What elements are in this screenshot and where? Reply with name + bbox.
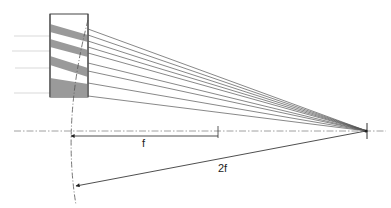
grating-element: [50, 14, 88, 97]
converging-rays: [88, 29, 367, 131]
f-label: f: [142, 137, 146, 149]
incoming-rays: [12, 36, 50, 93]
2f-dimension-arrow: [76, 131, 366, 186]
optics-diagram: f 2f: [0, 0, 391, 208]
2f-label: 2f: [218, 162, 228, 174]
